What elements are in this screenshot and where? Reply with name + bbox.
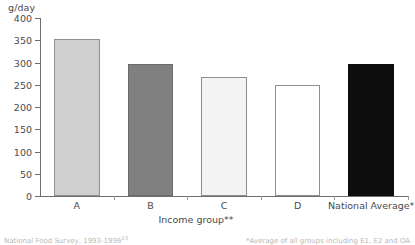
- x-tick-label: B: [147, 200, 154, 211]
- footnote-source: National Food Survey, 1993-199623: [4, 235, 128, 245]
- plot-area: 400350300250200150100500: [40, 18, 408, 196]
- x-tick: [261, 196, 262, 200]
- footnote-source-text: National Food Survey, 1993-1996: [4, 237, 121, 245]
- bar-a[interactable]: [54, 39, 100, 196]
- footnote-source-ref: 23: [121, 235, 128, 241]
- bar-series: [40, 18, 408, 196]
- bar-d[interactable]: [275, 85, 321, 196]
- bar-slot: [275, 18, 321, 196]
- y-tick-label: 250: [14, 79, 32, 90]
- y-axis-unit-label: g/day: [8, 2, 35, 13]
- y-tick-label: 300: [14, 57, 32, 68]
- bar-slot: [54, 18, 100, 196]
- footnote-note: *Average of all groups including E1, E2 …: [246, 237, 410, 245]
- y-tick: [35, 196, 40, 197]
- y-tick-label: 50: [20, 168, 32, 179]
- x-axis-line: [40, 196, 408, 197]
- x-tick-label: C: [221, 200, 228, 211]
- x-tick-label: A: [74, 200, 81, 211]
- x-axis-title: Income group**: [158, 214, 233, 225]
- x-tick: [114, 196, 115, 200]
- bar-national-average[interactable]: [348, 64, 394, 196]
- bar-slot: [201, 18, 247, 196]
- x-tick: [187, 196, 188, 200]
- y-tick-label: 0: [26, 191, 32, 202]
- bar-slot: [128, 18, 174, 196]
- chart-figure: g/day 400350300250200150100500 Income gr…: [0, 0, 415, 245]
- bar-c[interactable]: [201, 77, 247, 196]
- y-tick-label: 350: [14, 35, 32, 46]
- y-tick-label: 400: [14, 13, 32, 24]
- bar-slot: [348, 18, 394, 196]
- x-tick-label: D: [294, 200, 301, 211]
- bar-b[interactable]: [128, 64, 174, 196]
- y-tick-label: 200: [14, 102, 32, 113]
- x-tick-label: National Average*: [328, 200, 414, 211]
- y-tick-label: 150: [14, 124, 32, 135]
- y-tick-label: 100: [14, 146, 32, 157]
